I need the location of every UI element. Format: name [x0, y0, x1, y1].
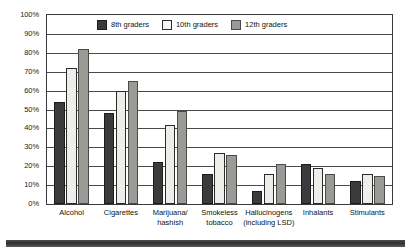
- x-axis-tick-label: Stimulants: [332, 208, 403, 218]
- x-axis: AlcoholCigarettesMarijuana/ hashishSmoke…: [47, 208, 392, 236]
- bar: [128, 81, 139, 204]
- bar: [214, 153, 225, 204]
- bar: [116, 91, 127, 204]
- bar: [177, 111, 188, 204]
- bar: [153, 162, 164, 204]
- chart-legend: 8th graders 10th graders 12th graders: [92, 17, 292, 33]
- legend-swatch-12th-graders: [231, 20, 241, 30]
- bar: [325, 174, 336, 204]
- bar: [313, 168, 324, 204]
- bar-group: [104, 15, 139, 204]
- bar-group: [54, 15, 89, 204]
- bar: [78, 49, 89, 204]
- legend-label-8th-graders: 8th graders: [111, 21, 149, 29]
- legend-item-8th-graders: 8th graders: [97, 20, 149, 30]
- legend-swatch-8th-graders: [97, 20, 107, 30]
- legend-label-10th-graders: 10th graders: [176, 21, 218, 29]
- footer-rule: [6, 240, 405, 247]
- legend-item-10th-graders: 10th graders: [162, 20, 218, 30]
- bar: [54, 102, 65, 204]
- bar: [252, 191, 263, 204]
- y-axis-tick-label: 100%: [20, 11, 39, 19]
- bar-group: [153, 15, 188, 204]
- y-axis-tick-label: 90%: [24, 30, 39, 38]
- y-axis-tick-label: 10%: [24, 181, 39, 189]
- bar-chart: 100%90%80%70%60%50%40%30%20%10%0% 8th gr…: [0, 0, 411, 251]
- bar: [301, 164, 312, 204]
- legend-label-12th-graders: 12th graders: [245, 21, 287, 29]
- bar-group: [301, 15, 336, 204]
- y-axis-tick-label: 40%: [24, 125, 39, 133]
- y-axis-tick-label: 0%: [28, 200, 39, 208]
- bar: [374, 176, 385, 204]
- bar-group: [252, 15, 287, 204]
- bar: [264, 174, 275, 204]
- bar-group: [202, 15, 237, 204]
- legend-item-12th-graders: 12th graders: [231, 20, 287, 30]
- y-axis-tick-label: 30%: [24, 144, 39, 152]
- y-axis-tick-label: 80%: [24, 49, 39, 57]
- bar: [66, 68, 77, 204]
- y-axis-tick-label: 70%: [24, 68, 39, 76]
- bar-group: [350, 15, 385, 204]
- bars-layer: [47, 15, 392, 204]
- bar: [202, 174, 213, 204]
- bar: [362, 174, 373, 204]
- bar: [226, 155, 237, 204]
- bar: [276, 164, 287, 204]
- bar: [165, 125, 176, 204]
- y-axis-tick-label: 20%: [24, 162, 39, 170]
- y-axis-tick-label: 60%: [24, 87, 39, 95]
- bar: [350, 181, 361, 204]
- y-axis-tick-label: 50%: [24, 106, 39, 114]
- bar: [104, 113, 115, 204]
- legend-swatch-10th-graders: [162, 20, 172, 30]
- y-axis: 100%90%80%70%60%50%40%30%20%10%0%: [0, 14, 42, 205]
